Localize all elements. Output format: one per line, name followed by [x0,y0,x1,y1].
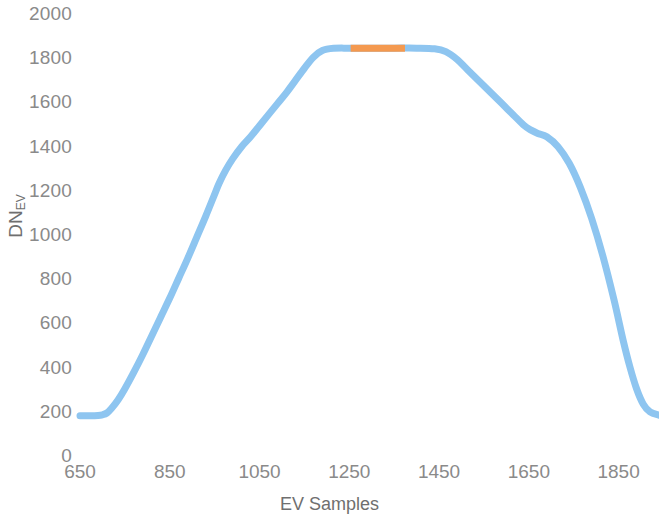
chart-container: DNEV 20001800160014001200100080060040020… [0,0,659,515]
y-axis-tick-1400: 1400 [12,137,72,156]
y-axis-tick-1000: 1000 [12,225,72,244]
series-line-ev-response [80,48,659,416]
y-axis-tick-800: 800 [12,269,72,288]
x-axis-tick-labels: 65085010501250145016501850 [0,462,659,492]
x-axis-title: EV Samples [0,494,659,515]
y-axis-tick-1600: 1600 [12,92,72,111]
x-axis-tick-1650: 1650 [508,462,550,481]
x-axis-tick-850: 850 [154,462,186,481]
y-axis-tick-600: 600 [12,313,72,332]
x-axis-tick-1050: 1050 [238,462,280,481]
x-axis-tick-1850: 1850 [597,462,639,481]
y-axis-tick-400: 400 [12,358,72,377]
x-axis-tick-650: 650 [64,462,96,481]
y-axis-tick-2000: 2000 [12,4,72,23]
y-axis-tick-labels: 2000180016001400120010008006004002000 [0,0,72,470]
x-axis-tick-1250: 1250 [328,462,370,481]
plot-svg [80,8,659,460]
y-axis-tick-1200: 1200 [12,181,72,200]
plot-area [80,8,659,460]
y-axis-tick-1800: 1800 [12,48,72,67]
y-axis-tick-200: 200 [12,402,72,421]
x-axis-tick-1450: 1450 [418,462,460,481]
